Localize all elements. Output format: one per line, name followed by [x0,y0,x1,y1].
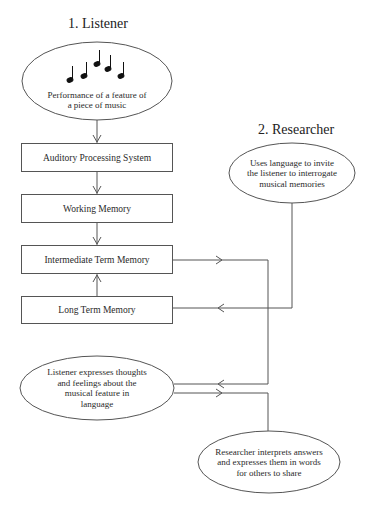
box-label: Working Memory [63,204,131,214]
performance-line-2: a piece of music [68,100,127,111]
expression-line-2: and feelings about the [57,378,136,389]
invite-line-3: musical memories [259,179,325,190]
invite-ellipse: Uses language to invite the listener to … [229,157,355,190]
expression-line-3: musical feature in [65,388,129,399]
connector-expression-to-interpret [174,393,268,431]
intermediate-memory-box: Intermediate Term Memory [21,245,173,274]
interpret-line-3: for others to share [236,468,301,479]
expression-line-1: Listener expresses thoughts [47,367,146,378]
interpret-ellipse: Researcher interprets answers and expres… [199,446,339,479]
working-memory-box: Working Memory [21,194,173,223]
invite-line-1: Uses language to invite [250,158,334,169]
interpret-line-1: Researcher interprets answers [215,447,322,458]
connector-invite-to-longterm [172,203,292,308]
long-term-memory-box: Long Term Memory [21,296,173,324]
performance-line-1: Performance of a feature of [48,90,147,101]
listener-heading: 1. Listener [68,16,128,32]
performance-ellipse: Performance of a feature of a piece of m… [22,88,172,112]
box-label: Auditory Processing System [43,153,151,163]
box-label: Intermediate Term Memory [44,255,149,265]
interpret-line-2: and expresses them in words [217,457,320,468]
connector-intermediate-to-expression [172,260,268,384]
invite-line-2: the listener to interrogate [247,168,337,179]
expression-ellipse: Listener expresses thoughts and feelings… [22,366,172,410]
box-label: Long Term Memory [58,305,135,315]
researcher-heading: 2. Researcher [258,122,334,138]
expression-line-4: language [81,399,113,410]
auditory-processing-box: Auditory Processing System [21,143,173,172]
flow-diagram: 1. Listener 2. Researcher Performance of… [0,0,375,509]
music-notes-icon [66,50,124,83]
